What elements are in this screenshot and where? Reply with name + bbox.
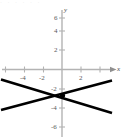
figure-container: · · · · · · -4 -2 2 6 4 2 -2 -4 -6 (0, 0, 124, 139)
y-tick-label--6: -6 (51, 124, 57, 131)
coordinate-plot (0, 0, 124, 139)
intersection-point (60, 93, 65, 98)
y-axis-label: y (64, 7, 67, 14)
y-tick-label--2: -2 (51, 86, 57, 93)
y-tick-label-2: 2 (54, 47, 58, 54)
y-tick-label-4: 4 (54, 28, 58, 35)
x-tick-label--4: -4 (20, 75, 26, 82)
y-tick-label--4: -4 (51, 105, 57, 112)
x-tick-label--2: -2 (39, 75, 45, 82)
x-axis-label: x (117, 66, 120, 73)
x-tick-label-2: 2 (79, 75, 83, 82)
x-axis-arrowhead (110, 67, 117, 73)
y-tick-label-6: 6 (54, 15, 58, 22)
